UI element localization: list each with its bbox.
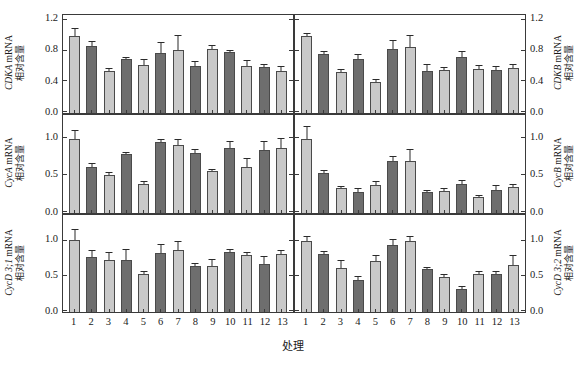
- bar-cyca-3[interactable]: [104, 175, 115, 213]
- bar-cdka-5[interactable]: [138, 65, 149, 113]
- xtick-label: 8: [187, 315, 204, 329]
- bar-cdka-1[interactable]: [69, 36, 80, 113]
- bar-cycd32-12[interactable]: [491, 274, 502, 312]
- bar-cdka-7[interactable]: [173, 50, 184, 113]
- bar-cyca-13[interactable]: [276, 148, 287, 214]
- bar-cyca-12[interactable]: [259, 150, 270, 213]
- bar-cdka-10[interactable]: [224, 52, 235, 113]
- bar-cycd32-6[interactable]: [387, 245, 398, 312]
- error-bar-cap: [407, 149, 414, 150]
- bar-cdkb-1[interactable]: [301, 36, 312, 113]
- bar-cycb-1[interactable]: [301, 139, 312, 213]
- bar-cdka-3[interactable]: [104, 71, 115, 113]
- bar-cycd32-4[interactable]: [353, 280, 364, 312]
- bar-cycd32-2[interactable]: [318, 254, 329, 312]
- bar-cycb-7[interactable]: [405, 161, 416, 213]
- bar-slot: [436, 119, 453, 213]
- error-bar-cap: [157, 244, 164, 245]
- error-bar-cap: [372, 255, 379, 256]
- bar-cycd32-1[interactable]: [301, 241, 312, 312]
- bar-cdka-13[interactable]: [276, 71, 287, 113]
- bar-cdka-12[interactable]: [259, 67, 270, 113]
- bar-cycd32-8[interactable]: [422, 269, 433, 312]
- bar-cycd31-13[interactable]: [276, 254, 287, 312]
- bar-cdkb-5[interactable]: [370, 82, 381, 113]
- bar-cyca-11[interactable]: [241, 167, 252, 213]
- bar-cdkb-12[interactable]: [491, 70, 502, 113]
- bar-cyca-10[interactable]: [224, 148, 235, 213]
- bar-cdka-4[interactable]: [121, 59, 132, 113]
- bar-cyca-7[interactable]: [173, 145, 184, 213]
- bar-cycd32-9[interactable]: [439, 277, 450, 312]
- bar-cycd32-11[interactable]: [473, 274, 484, 312]
- ytick-label: 1.0: [530, 132, 543, 143]
- error-bar-cap: [71, 130, 78, 131]
- bar-cdka-2[interactable]: [86, 46, 97, 113]
- bar-cyca-6[interactable]: [155, 142, 166, 213]
- bar-cycd31-9[interactable]: [207, 266, 218, 312]
- error-bar: [109, 173, 110, 176]
- bar-cdkb-10[interactable]: [456, 57, 467, 113]
- bar-cycd32-7[interactable]: [405, 241, 416, 312]
- plot-area-cycd32: [295, 215, 525, 312]
- bar-cycd31-6[interactable]: [155, 253, 166, 312]
- bar-cdka-11[interactable]: [241, 66, 252, 113]
- xtick-label: 13: [506, 315, 523, 329]
- bar-cycd31-11[interactable]: [241, 255, 252, 312]
- bar-cycd31-2[interactable]: [86, 257, 97, 312]
- xtick-mark: [461, 309, 462, 312]
- axis-title-cycb-gene: CycB: [553, 167, 563, 188]
- xtick-mark: [496, 210, 497, 213]
- error-bar: [143, 60, 144, 65]
- xtick-mark: [143, 110, 144, 113]
- bar-cycd31-5[interactable]: [138, 274, 149, 313]
- bar-cycd32-3[interactable]: [336, 268, 347, 312]
- bar-cyca-4[interactable]: [121, 154, 132, 213]
- bar-cycd31-12[interactable]: [259, 264, 270, 312]
- bar-cdkb-4[interactable]: [353, 59, 364, 113]
- bar-cycd31-8[interactable]: [190, 266, 201, 312]
- xtick-mark: [281, 210, 282, 213]
- bar-cyca-5[interactable]: [138, 184, 149, 213]
- bar-cdkb-7[interactable]: [405, 47, 416, 113]
- ytick-label: 0.5: [530, 169, 543, 180]
- bar-cycb-5[interactable]: [370, 185, 381, 213]
- bar-cycb-10[interactable]: [456, 184, 467, 213]
- error-bar-cap: [475, 195, 482, 196]
- error-bar: [478, 66, 479, 68]
- bar-cdkb-2[interactable]: [318, 54, 329, 113]
- bar-cycd31-4[interactable]: [121, 260, 132, 313]
- bar-cdkb-13[interactable]: [508, 68, 519, 113]
- bar-cyca-1[interactable]: [69, 139, 80, 213]
- bar-cdka-6[interactable]: [155, 53, 166, 113]
- bar-cycd32-5[interactable]: [370, 261, 381, 312]
- bar-slot: [419, 219, 436, 312]
- bar-slot: [169, 219, 186, 312]
- bar-cycd31-1[interactable]: [69, 240, 80, 312]
- bar-cdka-8[interactable]: [190, 66, 201, 113]
- bar-cdkb-3[interactable]: [336, 72, 347, 113]
- bar-cycd32-13[interactable]: [508, 265, 519, 312]
- error-bar: [427, 65, 428, 70]
- error-bar-cap: [493, 66, 500, 67]
- bar-slot: [298, 119, 315, 213]
- error-bar: [212, 260, 213, 266]
- bar-cyca-2[interactable]: [86, 167, 97, 213]
- bar-cyca-8[interactable]: [190, 153, 201, 213]
- panel-cdka: [62, 14, 294, 114]
- bar-cycb-6[interactable]: [387, 161, 398, 213]
- xtick-mark: [513, 210, 514, 213]
- bar-cycd31-10[interactable]: [224, 252, 235, 312]
- bar-slot: [332, 219, 349, 312]
- bar-cycd31-3[interactable]: [104, 260, 115, 312]
- bar-cdkb-6[interactable]: [387, 49, 398, 113]
- bar-cdkb-11[interactable]: [473, 69, 484, 113]
- bar-cycd31-7[interactable]: [173, 250, 184, 312]
- error-bar-cap: [106, 172, 113, 173]
- bar-cdkb-8[interactable]: [422, 71, 433, 113]
- bar-cdkb-9[interactable]: [439, 70, 450, 113]
- bar-cyca-9[interactable]: [207, 171, 218, 213]
- bar-cycb-2[interactable]: [318, 173, 329, 213]
- axis-title-cycb-cn: 相对含量: [563, 113, 574, 213]
- bar-cdka-9[interactable]: [207, 49, 218, 113]
